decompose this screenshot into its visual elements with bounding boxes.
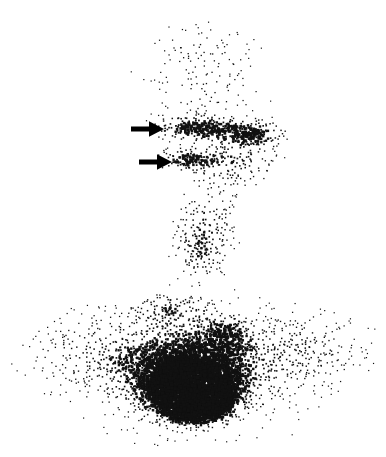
scintigram-figure: Dot-density radionuclide scintigram show… [0,0,386,457]
dot-density-scan-canvas [0,0,386,457]
